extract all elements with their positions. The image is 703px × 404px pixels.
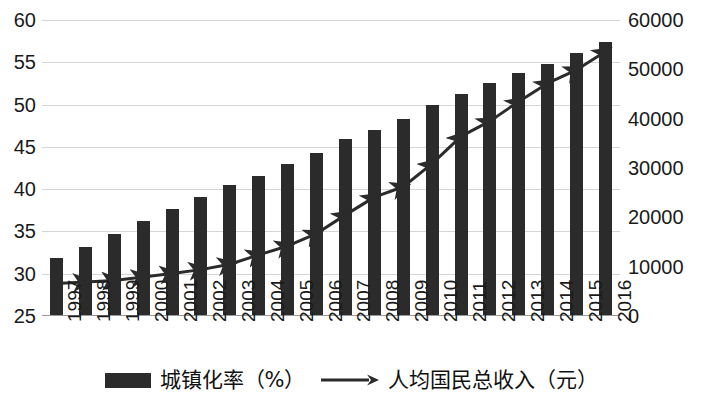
x-tick-label: 2006 — [326, 280, 345, 322]
x-tick-label: 2013 — [528, 280, 547, 322]
y-left-tick-label: 35 — [2, 221, 36, 241]
x-tick-label: 2011 — [470, 281, 489, 322]
x-tick-label: 2008 — [383, 280, 402, 322]
plot-area — [42, 20, 620, 316]
x-tick-label: 2000 — [152, 280, 171, 322]
y-left-tick-label: 45 — [2, 137, 36, 157]
y-right-tick-label: 30000 — [628, 158, 684, 178]
x-tick-label: 2005 — [297, 280, 316, 322]
line-segment — [345, 197, 374, 215]
x-tick-label: 2014 — [557, 280, 576, 322]
x-tick-label: 2012 — [499, 280, 518, 322]
x-tick-label: 2007 — [354, 280, 373, 322]
x-tick-label: 2015 — [586, 280, 605, 322]
line-segment — [172, 270, 201, 274]
y-left-tick-label: 30 — [2, 264, 36, 284]
x-tick-label: 2010 — [441, 280, 460, 322]
x-tick-label: 1999 — [123, 280, 142, 322]
x-tick-label: 2001 — [181, 280, 200, 322]
y-right-tick-label: 20000 — [628, 207, 684, 227]
y-right-tick-label: 40000 — [628, 109, 684, 129]
legend-label-gni: 人均国民总收入（元） — [388, 368, 598, 392]
line-segment — [259, 246, 288, 255]
legend-arrow-line-icon — [321, 373, 379, 387]
y-right-tick-label: 60000 — [628, 10, 684, 30]
line-segment — [201, 264, 230, 269]
line-segment — [548, 70, 577, 83]
y-right-tick-label: 50000 — [628, 59, 684, 79]
line-segment — [519, 83, 548, 101]
x-tick-label: 2004 — [268, 280, 287, 322]
x-tick-label: 2002 — [210, 280, 229, 322]
urbanization-gni-chart: 城镇化率（%） 人均国民总收入（元） 253035404550556001000… — [0, 0, 703, 404]
line-segment — [490, 101, 519, 121]
x-tick-label: 1997 — [65, 280, 84, 322]
line-segment — [403, 164, 432, 187]
line-segment — [230, 255, 259, 264]
y-left-tick-label: 25 — [2, 306, 36, 326]
x-tick-label: 2009 — [412, 280, 431, 322]
line-segment — [432, 136, 461, 163]
line-segment — [461, 121, 490, 136]
legend-entry-gni: 人均国民总收入（元） — [321, 368, 598, 392]
y-left-tick-label: 60 — [2, 10, 36, 30]
y-left-tick-label: 40 — [2, 179, 36, 199]
line-series-gni — [42, 20, 620, 316]
y-left-tick-label: 50 — [2, 95, 36, 115]
y-left-tick-label: 55 — [2, 52, 36, 72]
x-tick-label: 2016 — [615, 280, 634, 322]
line-segment — [317, 215, 346, 234]
legend-label-urbanization: 城镇化率（%） — [160, 368, 306, 392]
x-tick-label: 2003 — [239, 280, 258, 322]
legend-entry-urbanization: 城镇化率（%） — [105, 368, 306, 392]
legend-bar-swatch-icon — [105, 373, 151, 388]
y-right-tick-label: 10000 — [628, 257, 684, 277]
x-tick-label: 1998 — [94, 280, 113, 322]
line-segment — [374, 187, 403, 197]
chart-legend: 城镇化率（%） 人均国民总收入（元） — [0, 368, 703, 392]
line-segment — [288, 234, 317, 246]
line-segment — [577, 52, 606, 70]
line-segment — [143, 274, 172, 277]
